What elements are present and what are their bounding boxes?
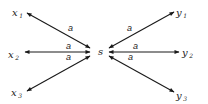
edge-s-y1	[109, 12, 174, 48]
node-x3-base: x	[11, 87, 17, 98]
edge-label-x3: a	[66, 52, 71, 62]
node-y1-subscript: 1	[183, 12, 187, 19]
edge-s-x1	[27, 13, 90, 48]
edge-s-y3	[109, 56, 174, 92]
node-x3-subscript: 3	[18, 92, 22, 99]
node-y3-base: y	[175, 90, 182, 101]
edge-label-y2: a	[133, 41, 138, 51]
node-x1-subscript: 1	[19, 12, 23, 19]
node-x2: x2	[8, 49, 19, 61]
node-y2: y2	[181, 47, 193, 59]
edge-label-x1: a	[68, 23, 73, 33]
node-y2-subscript: 2	[188, 52, 193, 59]
node-x1-base: x	[12, 7, 18, 18]
edge-label-y1: a	[127, 23, 132, 33]
node-y1: y1	[175, 7, 187, 19]
edge-s-x3	[27, 56, 90, 91]
node-y3-subscript: 3	[183, 95, 187, 102]
node-s: s	[98, 46, 103, 57]
edge-label-x2: a	[66, 41, 71, 51]
node-y2-base: y	[181, 47, 188, 58]
node-x1: x1	[12, 7, 23, 19]
star-diagram: aaaaaa sx1x2x3y1y2y3	[0, 0, 208, 104]
node-x2-subscript: 2	[14, 54, 19, 61]
node-x3: x3	[11, 87, 22, 99]
node-x2-base: x	[8, 49, 14, 60]
node-y3: y3	[175, 90, 187, 102]
edge-label-y3: a	[128, 52, 133, 62]
node-y1-base: y	[175, 7, 182, 18]
